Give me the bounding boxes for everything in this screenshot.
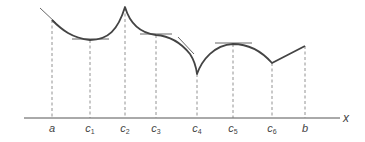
- diagram-canvas: [0, 0, 365, 142]
- x-axis-label: x: [343, 112, 349, 124]
- tick-label-c6: c6: [267, 123, 276, 135]
- tick-label-c1: c1: [85, 123, 94, 135]
- tick-label-b: b: [302, 123, 308, 134]
- tick-label-base: a: [49, 122, 55, 134]
- tick-label-subscript: 5: [234, 128, 238, 135]
- tick-label-a: a: [49, 123, 55, 134]
- tick-label-base: b: [302, 122, 308, 134]
- tick-label-c4: c4: [192, 123, 201, 135]
- tick-label-subscript: 3: [157, 128, 161, 135]
- tick-label-subscript: 4: [198, 128, 202, 135]
- tick-label-c3: c3: [151, 123, 160, 135]
- tick-label-subscript: 1: [91, 128, 95, 135]
- dashed-guides: [52, 8, 305, 118]
- tick-label-subscript: 6: [273, 128, 277, 135]
- tick-label-subscript: 2: [126, 128, 130, 135]
- tick-label-c5: c5: [228, 123, 237, 135]
- tick-label-c2: c2: [120, 123, 129, 135]
